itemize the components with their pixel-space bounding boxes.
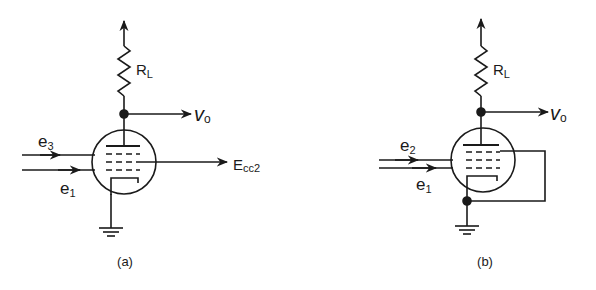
caption-a: (a) [117, 254, 133, 269]
ecc2-label: Ecc2 [233, 156, 260, 174]
panel-b [379, 19, 548, 234]
grids-b [466, 152, 500, 168]
e1-label-a: e1 [60, 179, 76, 199]
ground-icon-b [455, 226, 479, 234]
panel-a [22, 21, 227, 236]
panel-a-labels: RL vo e3 e1 Ecc2 (a) [38, 61, 260, 269]
ground-icon-a [99, 228, 123, 236]
circuit-figure: RL vo e3 e1 Ecc2 (a) [0, 0, 596, 290]
pentode-tube-b [451, 128, 515, 192]
caption-b: (b) [477, 254, 493, 269]
vo-label-a: vo [194, 103, 211, 126]
panel-b-labels: RL vo e2 e1 (b) [400, 61, 567, 269]
e3-label: e3 [38, 132, 54, 152]
e1-label-b: e1 [416, 175, 432, 195]
vo-label-b: vo [550, 102, 567, 125]
load-resistor-a [118, 46, 130, 96]
rl-label-a: RL [136, 61, 153, 80]
load-resistor-b [475, 46, 487, 96]
grids-a [106, 154, 140, 170]
rl-label-b: RL [493, 61, 510, 80]
e2-label: e2 [400, 136, 416, 156]
